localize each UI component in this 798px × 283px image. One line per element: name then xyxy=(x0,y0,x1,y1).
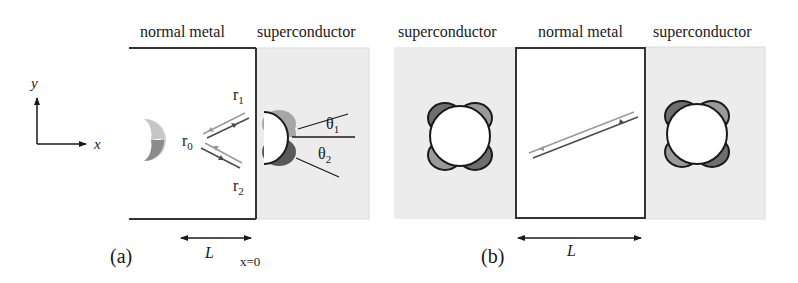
region-label-superconductor-a: superconductor xyxy=(257,24,356,40)
reflection-label-r0: r0 xyxy=(182,133,193,149)
reflection-label-r2: r2 xyxy=(233,178,244,194)
region-label-normal-metal-b: normal metal xyxy=(538,24,623,40)
r2-sub: 2 xyxy=(238,185,244,197)
theta1-sub: 1 xyxy=(334,123,340,135)
normal-crescent-icon xyxy=(144,119,166,161)
left-dwave-icon xyxy=(428,103,492,170)
diagram-canvas xyxy=(0,0,798,283)
theta2-sub: 2 xyxy=(326,153,332,165)
theta1-base: θ xyxy=(326,115,334,132)
region-label-left-superconductor-b: superconductor xyxy=(398,24,497,40)
theta2-base: θ xyxy=(318,145,326,162)
panel-b xyxy=(394,47,765,238)
length-label-b: L xyxy=(567,243,576,259)
length-label-a: L xyxy=(205,245,214,261)
panel-a xyxy=(37,48,369,238)
axis-label-x: x xyxy=(94,137,101,152)
r1-sub: 1 xyxy=(238,94,244,106)
panel-label-a: (a) xyxy=(110,246,132,266)
interface-label: x=0 xyxy=(240,255,260,268)
ray-r1 xyxy=(203,113,249,138)
r0-sub: 0 xyxy=(187,140,193,152)
panel-label-b: (b) xyxy=(481,246,504,266)
region-label-normal-metal-a: normal metal xyxy=(140,24,225,40)
region-label-right-superconductor-b: superconductor xyxy=(653,24,752,40)
ray-r2 xyxy=(201,143,242,168)
axes-icon xyxy=(37,98,86,144)
angle-label-theta1: θ1 xyxy=(326,116,339,132)
right-dwave-icon xyxy=(665,101,729,167)
reflection-label-r1: r1 xyxy=(233,87,244,103)
axis-label-y: y xyxy=(31,76,38,91)
angle-label-theta2: θ2 xyxy=(318,146,331,162)
